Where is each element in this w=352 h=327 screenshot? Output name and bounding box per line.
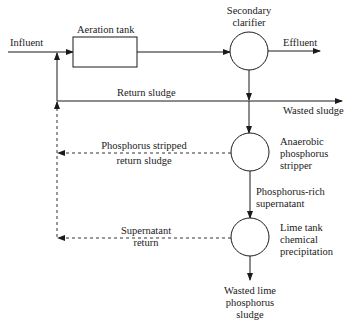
anaerobic-stripper-label-line2: phosphorus [280,148,328,160]
p-stripped-return-label: Phosphorus stripped return sludge [94,140,194,167]
anaerobic-stripper-circle [231,133,269,171]
effluent-label: Effluent [283,37,317,49]
supernatant-return-label-line2: return [106,237,186,249]
secondary-clarifier-circle [230,32,268,70]
p-stripped-return-label-line1: Phosphorus stripped [94,140,194,152]
influent-label: Influent [10,37,43,49]
lime-tank-circle [231,218,269,256]
supernatant-return-label-line1: Supernatant [106,225,186,237]
secondary-clarifier-label-line1: Secondary [219,5,279,17]
secondary-clarifier-label-line2: clarifier [219,17,279,29]
anaerobic-stripper-label-line3: stripper [280,160,328,172]
wasted-lime-sludge-label-line3: sludge [215,309,285,321]
wasted-sludge-label: Wasted sludge [283,105,344,117]
lime-tank-label-line3: precipitation [280,246,333,258]
wasted-lime-sludge-label-line2: phosphorus [215,297,285,309]
wasted-lime-sludge-label: Wasted lime phosphorus sludge [215,285,285,321]
secondary-clarifier-label: Secondary clarifier [219,5,279,29]
p-rich-supernatant-label: Phosphorus-rich supernatant [256,186,325,210]
p-rich-supernatant-label-line1: Phosphorus-rich [256,186,325,198]
aeration-tank-label: Aeration tank [77,24,134,36]
p-stripped-return-label-line2: return sludge [94,155,194,167]
anaerobic-stripper-label-line1: Anaerobic [280,136,328,148]
lime-tank-label-line1: Lime tank [280,222,333,234]
return-sludge-label: Return sludge [117,87,176,99]
supernatant-return-label: Supernatant return [106,225,186,249]
aeration-tank-box [73,37,137,67]
p-rich-supernatant-label-line2: supernatant [256,198,325,210]
wasted-lime-sludge-label-line1: Wasted lime [215,285,285,297]
lime-tank-label-line2: chemical [280,234,333,246]
lime-tank-label: Lime tank chemical precipitation [280,222,333,258]
anaerobic-stripper-label: Anaerobic phosphorus stripper [280,136,328,172]
